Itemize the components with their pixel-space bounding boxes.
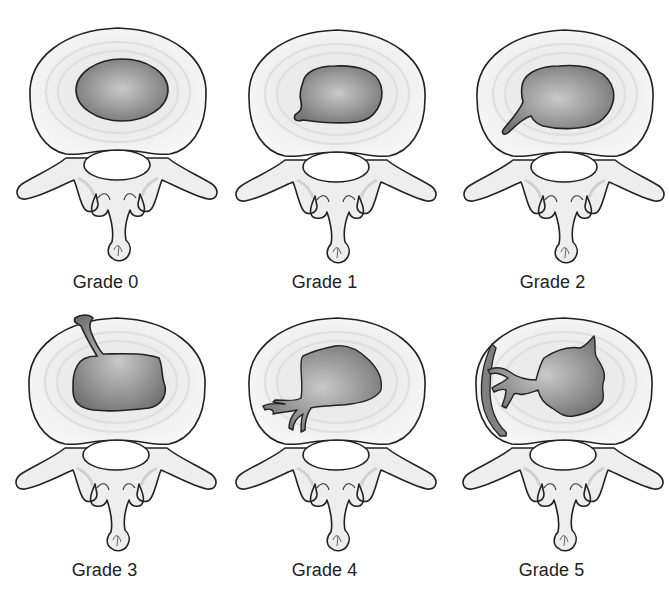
- panel-grade-0: Grade 0: [0, 0, 217, 298]
- disc-degeneration-figure: Grade 0 Grade 1 Grade 2: [0, 0, 669, 597]
- disc-illustration-grade-3: [0, 290, 216, 588]
- grade-label: Grade 3: [0, 560, 216, 581]
- grade-label: Grade 4: [213, 560, 436, 581]
- panel-grade-5: Grade 5: [440, 290, 663, 588]
- disc-illustration-grade-2: [441, 2, 664, 300]
- vertebra-icon: [236, 152, 436, 263]
- panel-grade-3: Grade 3: [0, 290, 216, 588]
- vertebra-icon: [16, 440, 216, 551]
- vertebra-icon: [464, 152, 664, 263]
- panel-grade-4: Grade 4: [213, 290, 436, 588]
- nucleus-icon: [294, 66, 381, 123]
- vertebra-icon: [463, 440, 663, 551]
- disc-illustration-grade-0: [0, 0, 217, 298]
- panel-grade-2: Grade 2: [441, 2, 664, 300]
- vertebra-icon: [236, 440, 436, 551]
- disc-illustration-grade-5: [440, 290, 663, 588]
- nucleus-icon: [76, 59, 168, 121]
- panel-grade-1: Grade 1: [213, 2, 436, 300]
- vertebra-icon: [17, 150, 217, 261]
- grade-label: Grade 5: [440, 560, 663, 581]
- disc-illustration-grade-1: [213, 2, 436, 300]
- disc-illustration-grade-4: [213, 290, 436, 588]
